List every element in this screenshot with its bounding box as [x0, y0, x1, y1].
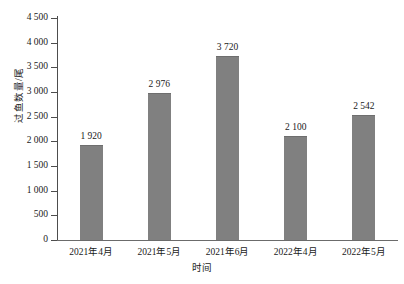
bar: [216, 56, 239, 240]
x-axis-tick-label: 2022年5月: [319, 246, 404, 258]
y-axis-tick-label: 1 500: [0, 161, 48, 171]
bar: [80, 145, 103, 240]
bar-value-label: 2 542: [334, 101, 394, 111]
y-axis-tick: [51, 240, 57, 241]
y-axis-tick-label: 2 500: [0, 112, 48, 122]
y-axis-tick-label: 1 000: [0, 186, 48, 196]
bar-value-label: 2 100: [266, 122, 326, 132]
bar-value-label: 1 920: [61, 131, 121, 141]
y-axis-tick-label: 500: [0, 210, 48, 220]
bar: [284, 136, 307, 240]
bar-value-label: 2 976: [129, 79, 189, 89]
y-axis-tick-label: 3 000: [0, 87, 48, 97]
y-axis-tick-label: 3 500: [0, 62, 48, 72]
y-axis-tick-label: 0: [0, 235, 48, 245]
y-axis-tick-label: 4 500: [0, 13, 48, 23]
y-axis-tick-label: 4 000: [0, 38, 48, 48]
bar-value-label: 3 720: [198, 42, 258, 52]
y-axis-tick-label: 2 000: [0, 136, 48, 146]
x-axis-line: [57, 240, 398, 241]
bar: [148, 93, 171, 240]
bar: [352, 115, 375, 240]
bar-chart: 过鱼数量/尾 05001 0001 5002 0002 5003 0003 50…: [0, 0, 404, 284]
x-axis-title: 时间: [0, 262, 404, 274]
